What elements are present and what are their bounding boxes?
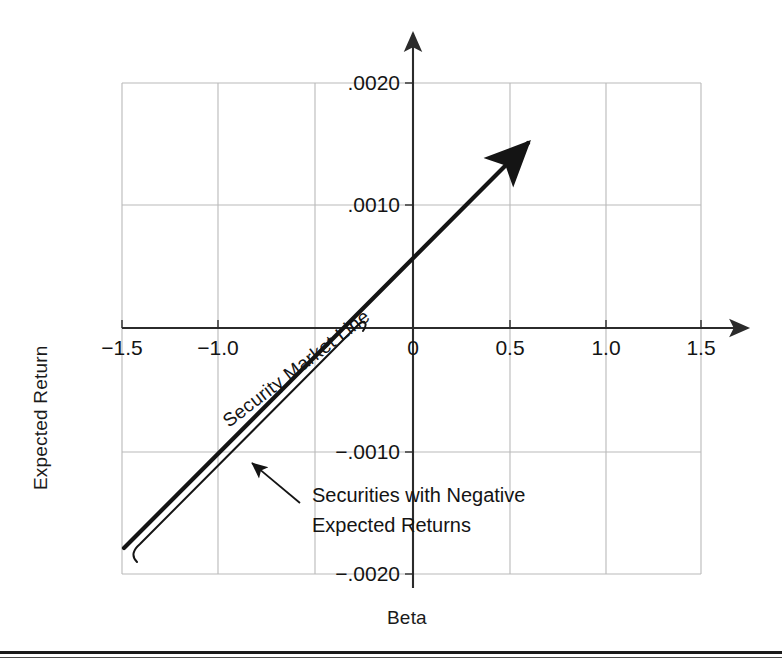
ytick-label-0.0010: .0010	[282, 193, 400, 217]
xtick-label--1.5: −1.5	[82, 336, 162, 360]
ytick-label--0.0010: −.0010	[272, 440, 400, 464]
negative-returns-callout-line2: Expected Returns	[312, 513, 471, 538]
ytick-label-0.0020: .0020	[282, 71, 400, 95]
ytick-label--0.0020: −.0020	[272, 562, 400, 586]
xtick-label-1.0: 1.0	[566, 336, 646, 360]
callout-arrow	[252, 463, 300, 503]
y-axis-title: Expected Return	[30, 345, 52, 490]
xtick-label-0: 0	[373, 336, 453, 360]
figure-security-market-line: .0020 .0010 −.0010 −.0020 −1.5 −1.0 0 0.…	[0, 0, 782, 667]
xtick-label-1.5: 1.5	[661, 336, 741, 360]
xtick-label--1.0: −1.0	[178, 336, 258, 360]
x-axis-ticks	[122, 320, 701, 328]
negative-returns-callout-line1: Securities with Negative	[312, 483, 525, 508]
xtick-label-0.5: 0.5	[470, 336, 550, 360]
page-rule-thin	[0, 657, 782, 658]
x-axis-title: Beta	[387, 607, 427, 629]
page-rule-thick	[0, 651, 782, 654]
